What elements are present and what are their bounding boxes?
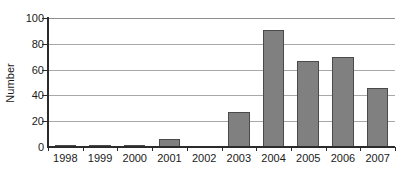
x-tick-label: 2007 (365, 152, 389, 164)
bar (297, 61, 319, 147)
bar-chart: Number 100 80 60 40 20 0 199819992000200… (0, 0, 410, 182)
x-tick-mark (187, 147, 188, 151)
y-tick-label: 0 (38, 141, 44, 153)
x-tick-mark (291, 147, 292, 151)
x-tick-mark (256, 147, 257, 151)
bar (367, 88, 389, 147)
y-axis-title: Number (2, 18, 18, 147)
y-axis-tick-labels: 100 80 60 40 20 0 (18, 0, 44, 182)
x-tick-label: 2002 (192, 152, 216, 164)
x-tick-label: 2004 (261, 152, 285, 164)
x-tick-label: 1998 (53, 152, 77, 164)
x-tick-label: 2001 (157, 152, 181, 164)
bar-series (48, 18, 395, 147)
bar (228, 112, 250, 147)
x-tick-label: 2006 (331, 152, 355, 164)
bar (263, 30, 285, 147)
x-tick-mark (360, 147, 361, 151)
x-tick-mark (222, 147, 223, 151)
y-axis-line (47, 17, 49, 148)
x-tick-label: 1999 (88, 152, 112, 164)
x-tick-mark (326, 147, 327, 151)
x-tick-label: 2003 (227, 152, 251, 164)
x-tick-mark (152, 147, 153, 151)
x-axis-tick-labels: 1998199920002001200220032004200520062007 (48, 152, 395, 174)
x-tick-mark (117, 147, 118, 151)
bar (332, 57, 354, 147)
y-axis-title-label: Number (4, 63, 16, 103)
x-tick-mark (83, 147, 84, 151)
x-tick-mark (395, 147, 396, 151)
x-tick-mark (48, 147, 49, 151)
plot-area (48, 18, 395, 147)
x-tick-label: 2005 (296, 152, 320, 164)
x-tick-label: 2000 (123, 152, 147, 164)
